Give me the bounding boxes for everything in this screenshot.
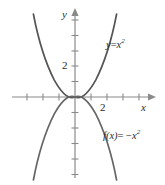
y-axis-arrow-icon [71,8,78,16]
curve-label-y-equals-x-squared: y=x2 [106,38,125,50]
y-tick-label-2: 2 [62,60,68,71]
x-tick-label-2: 2 [100,102,106,113]
curve-label-up-exponent: 2 [121,37,125,45]
x-axis-arrow-icon [148,93,156,100]
parabola-comparison-figure: y x 2 2 y=x2 f(x)= −x2 [0,0,165,185]
curve-label-down-operator: = − [118,130,132,141]
curve-label-f-of-x-equals-negative-x-squared: f(x)= −x2 [103,129,140,141]
y-axis-label: y [62,9,67,20]
x-axis-label: x [141,102,146,113]
graph-canvas [0,0,165,185]
curve-label-down-exponent: 2 [137,128,141,136]
axes-group [12,8,156,178]
curve-label-down-lhs: f(x) [103,130,118,141]
